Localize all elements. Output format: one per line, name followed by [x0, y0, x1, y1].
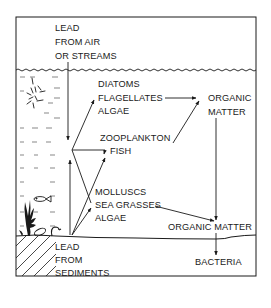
label-line: FLAGELLATES	[98, 92, 163, 106]
label-line: SEDIMENTS	[55, 267, 110, 280]
lead-from-sediments-label: LEAD FROM SEDIMENTS	[55, 241, 110, 280]
zooplankton-label: ZOOPLANKTON	[100, 133, 170, 144]
organic-matter-upper-label: ORGANIC MATTER	[208, 92, 252, 119]
fish-icon	[34, 196, 51, 202]
label-line: DIATOMS	[98, 78, 163, 92]
lead-from-air-label: LEAD FROM AIR OR STREAMS	[55, 21, 117, 63]
label-line: ALGAE	[95, 212, 161, 225]
label-line: ALGAE	[98, 105, 163, 119]
seaweed-icon	[19, 200, 36, 236]
diagram-frame	[16, 17, 256, 276]
label-line: OR STREAMS	[55, 49, 117, 63]
sun-icon	[27, 78, 45, 108]
label-line: ORGANIC	[208, 92, 252, 106]
label-line: SEA GRASSES	[95, 199, 161, 212]
water-column-marks	[20, 77, 60, 226]
benthic-label: MOLLUSCS SEA GRASSES ALGAE	[95, 186, 161, 225]
phytoplankton-label: DIATOMS FLAGELLATES ALGAE	[98, 78, 163, 119]
snail-icon	[51, 227, 61, 236]
fish-label: FISH	[110, 146, 131, 157]
water-surface-line	[16, 69, 256, 71]
label-line: LEAD	[55, 21, 117, 35]
label-line: MOLLUSCS	[95, 186, 161, 199]
label-line: FROM	[55, 254, 110, 267]
label-line: MATTER	[208, 106, 252, 120]
sediment-surface-line	[16, 235, 256, 239]
bacteria-label: BACTERIA	[195, 257, 242, 268]
label-line: LEAD	[55, 241, 110, 254]
organic-matter-lower-label: ORGANIC MATTER	[168, 222, 252, 233]
label-line: FROM AIR	[55, 35, 117, 49]
